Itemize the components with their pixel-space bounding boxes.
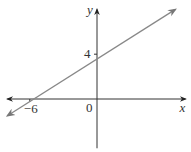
line-graph: y x 0 4 −6 (0, 0, 191, 152)
y-axis-label: y (85, 2, 93, 17)
y-tick-label: 4 (84, 46, 91, 61)
origin-label: 0 (86, 100, 93, 115)
x-axis-label: x (178, 100, 185, 115)
x-tick-label: −6 (24, 101, 38, 116)
